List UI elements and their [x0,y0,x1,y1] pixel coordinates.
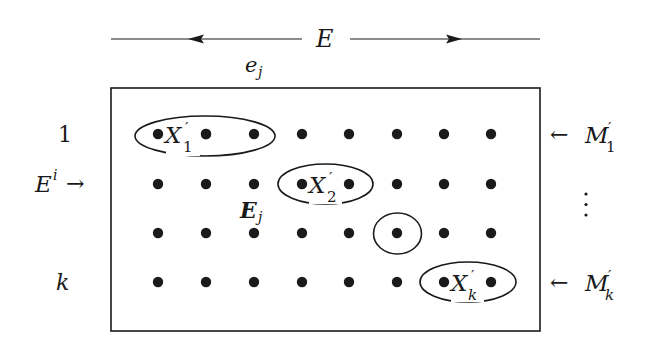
dot [486,277,496,287]
dot [439,179,449,189]
left-label-row-k: k [56,270,69,295]
dot [344,228,354,238]
dot [344,129,354,139]
group-label-sub: 1 [183,138,193,156]
vdot [584,203,587,206]
group-label-base: X [307,172,327,198]
right-label-Mk-sub: k [605,286,614,304]
left-label-Ei-base: E [34,171,52,197]
dot [439,277,449,287]
top-sublabel: e j [245,53,263,80]
right-label-Mk: ← M ′ k [550,267,614,304]
right-label-Mk-prime: ′ [608,267,612,285]
dot [439,228,449,238]
group-label-xk: X ′ k [449,267,484,304]
dot-grid [153,129,496,287]
group-label-sub: k [468,286,477,304]
inner-label-Ej: E j [239,197,263,225]
group-label-sub: 2 [327,188,337,206]
right-label-M1: ← M ′ 1 [550,119,616,156]
dot [344,179,354,189]
top-label-E: E [315,25,334,53]
row-3-dots [153,228,496,238]
dot [249,228,259,238]
dot [297,179,307,189]
dot [201,277,211,287]
group-label-base: X [449,270,469,296]
right-labels: ← M ′ 1 ← M ′ k [550,119,616,304]
dot [249,277,259,287]
left-labels: 1 E i → k [34,122,84,295]
dot [201,228,211,238]
left-label-row-1: 1 [58,122,72,147]
diagram-canvas: E e j [0,0,655,348]
group-label-prime: ′ [329,169,333,187]
dot [153,129,163,139]
group-label-base: X [163,122,183,148]
dot [201,129,211,139]
top-sublabel-base: e [245,53,257,77]
group-label-x2: X ′ 2 [307,169,342,206]
right-arrow-icon: → [66,171,84,196]
dot [249,129,259,139]
dot [297,228,307,238]
right-label-M1-sub: 1 [606,138,616,156]
dot [439,129,449,139]
dot [392,129,402,139]
top-span-arrow: E [111,25,540,53]
dot [486,179,496,189]
dot [486,228,496,238]
vdots-icon [584,192,587,216]
dot [344,277,354,287]
dot [153,228,163,238]
dot [392,179,402,189]
row-4-dots [153,277,496,287]
dot [486,129,496,139]
left-arrow-icon: ← [550,122,568,147]
dot [392,228,402,238]
group-label-x1: X ′ 1 [163,119,211,156]
vdot [584,213,587,216]
dot [153,277,163,287]
dot [153,179,163,189]
group-label-prime: ′ [185,119,189,137]
inner-label-base: E [239,197,258,223]
group-label-prime: ′ [471,267,475,285]
left-label-Ei-sup: i [53,167,57,183]
dot [249,179,259,189]
left-label-Ei: E i → [34,167,84,197]
dot [297,129,307,139]
right-label-M1-prime: ′ [608,119,612,137]
dot [201,179,211,189]
vdot [584,192,587,195]
dot [392,277,402,287]
dot [297,277,307,287]
left-arrow-icon: ← [550,270,568,295]
